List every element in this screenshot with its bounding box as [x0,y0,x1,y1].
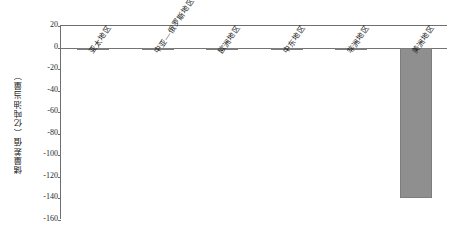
y-tick-mark [58,91,62,92]
x-tick-mark [287,48,288,52]
y-tick-mark [58,220,62,221]
y-axis-title-text: 储量差值（亿吨油当量） [13,71,25,174]
y-tick-mark [58,155,62,156]
y-tick-label: -160 [43,215,58,223]
bar [400,48,432,199]
y-tick-label: 20 [50,21,58,29]
y-tick-mark [58,134,62,135]
y-tick-mark [58,26,62,27]
bar-chart: 储量差值（亿吨油当量） 200-20-40-60-80-100-120-140-… [0,0,461,246]
y-tick-mark [58,69,62,70]
x-tick-mark [158,48,159,52]
x-tick-mark [416,48,417,52]
x-tick-mark [222,48,223,52]
y-tick-mark [58,112,62,113]
plot-area [60,25,447,219]
x-tick-mark [93,48,94,52]
x-tick-mark [351,48,352,52]
bar-series [61,26,447,219]
y-tick-label: -100 [43,150,58,158]
y-tick-mark [58,198,62,199]
y-tick-label: -140 [43,193,58,201]
y-tick-label: 0 [54,43,58,51]
y-tick-label: -80 [47,129,58,137]
y-tick-mark [58,48,62,49]
y-tick-label: -60 [47,107,58,115]
y-tick-label: -120 [43,172,58,180]
y-tick-label: -20 [47,64,58,72]
y-tick-mark [58,177,62,178]
y-axis-tick-labels: 200-20-40-60-80-100-120-140-160 [26,0,58,246]
y-tick-label: -40 [47,86,58,94]
